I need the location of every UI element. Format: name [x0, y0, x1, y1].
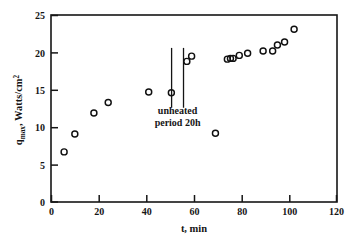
x-tick-label-120: 120: [329, 206, 344, 217]
x-tick-label-0: 0: [49, 206, 54, 217]
x-tick-label-80: 80: [237, 206, 247, 217]
y-tick-label-5: 5: [40, 160, 45, 171]
x-tick-label-20: 20: [94, 206, 104, 217]
unheated-annotation-line2: period 20h: [155, 117, 201, 128]
y-axis-title-subscript: max: [19, 126, 27, 140]
y-tick-label-20: 20: [35, 48, 45, 59]
y-axis-title-superscript: 2: [13, 74, 21, 78]
y-axis-title-rest: , Watts/cm: [13, 78, 24, 126]
y-tick-label-10: 10: [35, 122, 45, 133]
scatter-chart-figure: 25 20 15 10 5 0 0 20 40 60 80 100 120 t,…: [0, 0, 354, 242]
chart-svg: 25 20 15 10 5 0 0 20 40 60 80 100 120 t,…: [0, 0, 354, 242]
x-tick-label-60: 60: [190, 206, 200, 217]
unheated-annotation-line1: unheated: [158, 105, 198, 116]
y-tick-label-15: 15: [35, 85, 45, 96]
x-tick-label-100: 100: [282, 206, 297, 217]
y-tick-label-0: 0: [40, 197, 45, 208]
y-tick-label-25: 25: [35, 10, 45, 21]
x-axis-title: t, min: [181, 223, 207, 234]
x-tick-label-40: 40: [142, 206, 152, 217]
